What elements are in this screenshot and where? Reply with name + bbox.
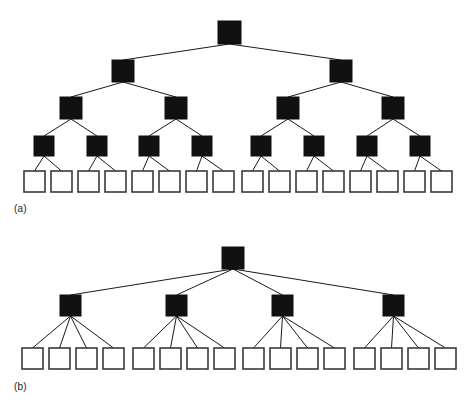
tree-edge: [71, 269, 234, 295]
tree-node-internal: [112, 60, 134, 82]
tree-node-leaf: [213, 171, 234, 192]
tree-node-leaf: [297, 348, 318, 369]
tree-node-leaf: [435, 348, 456, 369]
tree-edge: [392, 316, 394, 348]
tree-edge: [367, 119, 393, 136]
tree-node-internal: [410, 136, 430, 156]
tree-node-leaf: [187, 348, 208, 369]
node-level-a-leaves: [24, 171, 452, 192]
tree-node-leaf: [132, 171, 153, 192]
tree-edge: [149, 119, 176, 136]
tree-edge: [97, 156, 116, 171]
tree-node-internal: [34, 136, 54, 156]
tree-edge: [149, 156, 170, 171]
tree-diagram-group: [0, 0, 464, 405]
tree-edge: [197, 156, 203, 171]
tree-edge: [35, 156, 45, 171]
tree-node-internal: [60, 295, 81, 316]
tree-node-internal: [272, 295, 293, 316]
tree-node-leaf: [296, 171, 317, 192]
tree-node-leaf: [242, 171, 263, 192]
tree-node-leaf: [324, 348, 345, 369]
tree-edge: [71, 316, 87, 348]
tree-edge: [415, 156, 421, 171]
tree-node-leaf: [431, 171, 452, 192]
tree-edge: [253, 156, 262, 171]
tree-edge: [254, 316, 283, 348]
panel-label-b: (b): [14, 381, 27, 392]
tree-edge: [288, 119, 314, 136]
tree-node-leaf: [270, 348, 291, 369]
tree-node-leaf: [381, 348, 402, 369]
tree-node-internal: [330, 60, 352, 82]
tree-node-leaf: [214, 348, 235, 369]
tree-edge: [283, 316, 335, 348]
tree-node-leaf: [350, 171, 371, 192]
tree-edge: [365, 316, 394, 348]
node-level-b-root: [222, 247, 244, 269]
tree-edge: [177, 269, 234, 295]
tree-edge: [283, 316, 308, 348]
tree-edge: [230, 44, 342, 60]
tree-node-leaf: [49, 348, 70, 369]
tree-edge: [261, 156, 280, 171]
tree-edge: [71, 119, 97, 136]
tree-panel-b: [22, 247, 456, 369]
tree-node-leaf: [105, 171, 126, 192]
tree-node-internal: [166, 295, 187, 316]
tree-node-leaf: [186, 171, 207, 192]
tree-node-internal: [222, 247, 244, 269]
tree-edge: [394, 316, 419, 348]
tree-edge: [261, 119, 288, 136]
tree-edge: [123, 44, 230, 60]
node-level-a-root: [218, 21, 241, 44]
tree-node-leaf: [269, 171, 290, 192]
tree-edge: [281, 316, 283, 348]
tree-node-leaf: [24, 171, 45, 192]
tree-edge: [307, 156, 315, 171]
tree-node-leaf: [22, 348, 43, 369]
tree-edge: [361, 156, 368, 171]
tree-edge: [71, 316, 114, 348]
node-level-a-level-4: [34, 136, 430, 156]
tree-node-internal: [357, 136, 377, 156]
tree-node-leaf: [323, 171, 344, 192]
tree-edge: [89, 156, 98, 171]
tree-node-leaf: [103, 348, 124, 369]
tree-edge: [71, 82, 123, 97]
tree-node-internal: [87, 136, 107, 156]
tree-edge: [176, 119, 202, 136]
tree-node-leaf: [243, 348, 264, 369]
node-level-b-level-2: [60, 295, 404, 316]
node-level-b-leaves: [22, 348, 456, 369]
tree-node-leaf: [408, 348, 429, 369]
tree-edge: [177, 316, 225, 348]
node-level-a-level-3: [60, 97, 404, 119]
tree-node-leaf: [76, 348, 97, 369]
tree-node-internal: [382, 97, 404, 119]
tree-edge: [314, 156, 334, 171]
tree-edge: [367, 156, 388, 171]
tree-node-internal: [218, 21, 241, 44]
tree-edge: [394, 316, 446, 348]
tree-node-leaf: [354, 348, 375, 369]
tree-node-leaf: [51, 171, 72, 192]
tree-edge: [420, 156, 442, 171]
tree-node-internal: [383, 295, 404, 316]
figure-canvas: (a) (b): [0, 0, 464, 405]
tree-node-leaf: [159, 171, 180, 192]
tree-node-internal: [192, 136, 212, 156]
tree-panel-a: [24, 21, 452, 192]
tree-edge: [202, 156, 224, 171]
tree-edge: [123, 82, 176, 97]
tree-node-leaf: [404, 171, 425, 192]
tree-node-leaf: [78, 171, 99, 192]
tree-node-internal: [251, 136, 271, 156]
tree-edge: [143, 156, 150, 171]
tree-node-leaf: [377, 171, 398, 192]
tree-node-internal: [304, 136, 324, 156]
panel-label-a: (a): [14, 203, 27, 214]
tree-edge: [288, 82, 341, 97]
tree-edge: [177, 316, 198, 348]
tree-node-internal: [277, 97, 299, 119]
